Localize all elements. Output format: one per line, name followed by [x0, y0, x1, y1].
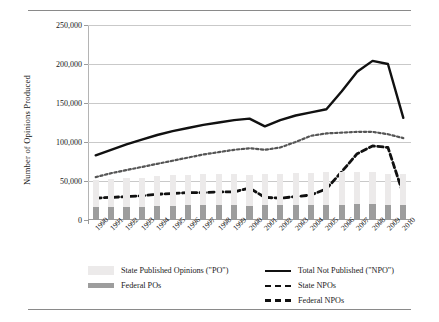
x-tick-mark: [380, 220, 381, 224]
x-tick-mark: [334, 220, 335, 224]
legend-label: Federal NPOs: [298, 296, 344, 305]
bar-federal-po: [185, 205, 191, 219]
legend-swatch-icon: [265, 285, 291, 287]
bar-federal-po: [308, 205, 314, 219]
legend-swatch-icon: [265, 299, 291, 302]
top-divider: [28, 10, 411, 11]
legend-item-state-npos[interactable]: State NPOs: [265, 281, 336, 290]
legend-swatch-icon: [88, 266, 114, 275]
bar-federal-po: [154, 206, 160, 219]
bar-federal-po: [170, 206, 176, 219]
x-tick-mark: [273, 220, 274, 224]
x-tick-mark: [288, 220, 289, 224]
legend-label: Federal POs: [121, 281, 161, 290]
bar-federal-po: [246, 206, 252, 219]
bar-federal-po: [385, 205, 391, 219]
legend-item-federal-pos[interactable]: Federal POs: [88, 281, 161, 290]
bar-federal-po: [277, 205, 283, 219]
plot-area: 050,000100,000150,000200,000250,000 1990…: [88, 25, 411, 220]
legend-item-state-published-opinions[interactable]: State Published Opinions ("PO"): [88, 266, 228, 275]
x-tick-mark: [211, 220, 212, 224]
legend-item-total-not-published[interactable]: Total Not Published ("NPO"): [265, 266, 394, 275]
bar-federal-po: [354, 204, 360, 219]
bar-federal-po: [369, 204, 375, 219]
bar-federal-po: [339, 205, 345, 219]
x-tick-mark: [365, 220, 366, 224]
x-tick-mark: [396, 220, 397, 224]
bar-federal-po: [262, 205, 268, 219]
y-tick-label: 150,000: [56, 99, 82, 108]
y-tick-label: 0: [78, 216, 82, 225]
x-tick-mark: [180, 220, 181, 224]
x-tick-mark: [319, 220, 320, 224]
bar-federal-po: [123, 207, 129, 219]
bar-federal-po: [323, 205, 329, 219]
bar-federal-po: [231, 205, 237, 219]
x-tick-mark: [88, 220, 89, 224]
legend-label: State Published Opinions ("PO"): [121, 266, 228, 275]
y-tick-label: 100,000: [56, 138, 82, 147]
x-tick-mark: [226, 220, 227, 224]
bottom-divider: [28, 309, 411, 310]
y-tick-label: 50,000: [60, 177, 82, 186]
x-tick-mark: [410, 220, 411, 224]
bar-federal-po: [139, 207, 145, 219]
legend-label: State NPOs: [298, 281, 336, 290]
x-tick-mark: [349, 220, 350, 224]
legend-label: Total Not Published ("NPO"): [298, 266, 394, 275]
bar-federal-po: [293, 205, 299, 219]
bar-federal-po: [200, 205, 206, 219]
x-tick-mark: [150, 220, 151, 224]
x-tick-mark: [119, 220, 120, 224]
y-axis-title: Number of Opinions Produced: [22, 40, 32, 220]
chart-figure: Number of Opinions Produced 050,000100,0…: [0, 0, 439, 322]
x-tick-mark: [257, 220, 258, 224]
x-tick-mark: [196, 220, 197, 224]
bar-federal-po: [108, 207, 114, 219]
legend-swatch-icon: [88, 283, 114, 288]
bar-federal-po: [400, 205, 406, 219]
bar-federal-po: [93, 207, 99, 219]
x-tick-mark: [103, 220, 104, 224]
line-total-npo: [96, 61, 404, 155]
x-tick-mark: [242, 220, 243, 224]
y-tick-label: 250,000: [56, 21, 82, 30]
x-tick-mark: [165, 220, 166, 224]
y-tick-label: 200,000: [56, 60, 82, 69]
legend-item-federal-npos[interactable]: Federal NPOs: [265, 296, 344, 305]
chart-legend: State Published Opinions ("PO")Total Not…: [60, 266, 435, 306]
legend-swatch-icon: [265, 270, 291, 272]
bar-federal-po: [216, 205, 222, 219]
x-tick-mark: [303, 220, 304, 224]
x-tick-mark: [134, 220, 135, 224]
